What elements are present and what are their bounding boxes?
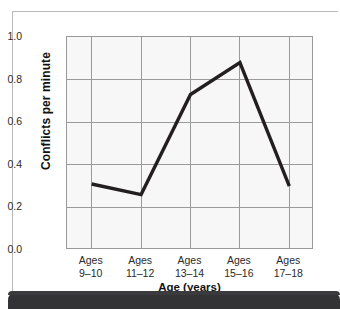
data-series-line bbox=[67, 37, 314, 250]
plot-area bbox=[66, 36, 313, 249]
x-axis-tick-label: Ages17–18 bbox=[253, 254, 323, 279]
y-axis-tick-label: 0.6 bbox=[0, 115, 22, 127]
page-bottom-band bbox=[8, 291, 340, 309]
page-bottom-band-highlight bbox=[8, 291, 340, 295]
figure-card: Conflicts per minute 1.00.80.60.40.20.0 … bbox=[0, 0, 340, 309]
y-axis-title: Conflicts per minute bbox=[39, 1, 53, 221]
y-axis-tick-label: 0.8 bbox=[0, 73, 22, 85]
y-axis-tick-label: 0.2 bbox=[0, 200, 22, 212]
y-axis-tick-label: 0.4 bbox=[0, 158, 22, 170]
x-axis-tick-label-line: 17–18 bbox=[253, 267, 323, 280]
x-axis-tick-label-line: Ages bbox=[253, 254, 323, 267]
y-axis-tick-label: 0.0 bbox=[0, 243, 22, 255]
y-axis-tick-label: 1.0 bbox=[0, 30, 22, 42]
